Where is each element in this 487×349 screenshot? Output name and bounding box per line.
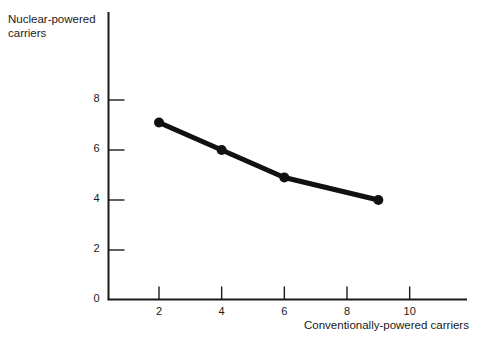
y-axis-label-line2: carriers: [8, 27, 46, 39]
x-tick-label: 10: [399, 305, 421, 318]
x-axis-label: Conventionally-powered carriers: [304, 319, 469, 333]
plot-area: [0, 0, 487, 349]
y-tick-label: 4: [78, 192, 100, 205]
y-tick-label: 6: [78, 142, 100, 155]
data-point-marker: [154, 118, 164, 128]
data-point-marker: [279, 173, 289, 183]
axis-ticks: [109, 100, 410, 300]
y-tick-label: 0: [78, 292, 100, 305]
data-point-marker: [217, 145, 227, 155]
chart-figure: Nuclear-poweredcarriers Conventionally-p…: [0, 0, 487, 349]
y-tick-label: 8: [78, 92, 100, 105]
y-tick-label: 2: [78, 242, 100, 255]
y-axis-label: Nuclear-poweredcarriers: [8, 13, 128, 40]
data-point-marker: [373, 195, 383, 205]
x-tick-label: 6: [273, 305, 295, 318]
x-tick-label: 4: [211, 305, 233, 318]
x-tick-label: 2: [148, 305, 170, 318]
data-series: [154, 118, 383, 206]
series-line: [159, 123, 378, 201]
x-tick-label: 8: [336, 305, 358, 318]
y-axis-label-line1: Nuclear-powered: [8, 13, 96, 25]
axes-lines: [108, 12, 468, 300]
